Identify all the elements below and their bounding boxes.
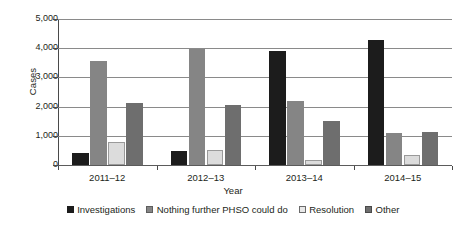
legend-label: Other [376, 204, 400, 215]
legend-label: Nothing further PHSO could do [157, 204, 288, 215]
bar [386, 133, 403, 165]
bar [368, 40, 385, 165]
bar-group [157, 19, 256, 165]
y-tick-label: 2,000 [16, 102, 58, 111]
legend-item[interactable]: Investigations [67, 204, 136, 215]
bar-group [255, 19, 354, 165]
x-category-label: 2014–15 [354, 172, 453, 183]
y-tick-1000: 1,000 [10, 131, 58, 141]
x-tick-mark [452, 166, 453, 170]
x-tick-mark [255, 166, 256, 170]
bar [287, 101, 304, 165]
x-tick-mark [58, 166, 59, 170]
bar [269, 51, 286, 165]
bar-group [58, 19, 157, 165]
legend-swatch-icon [365, 206, 372, 213]
x-category-label: 2011–12 [58, 172, 157, 183]
bar-chart: Cases 5,0004,0003,0002,0001,0000 2011–12… [0, 0, 466, 233]
bar [72, 153, 89, 165]
x-tick-mark [354, 166, 355, 170]
bar [207, 150, 224, 165]
legend-label: Resolution [309, 204, 354, 215]
bar [90, 61, 107, 165]
y-tick-label: 0 [16, 160, 58, 169]
bar [404, 155, 421, 165]
y-tick-5000: 5,000 [10, 14, 58, 24]
y-tick-label: 1,000 [16, 131, 58, 140]
x-category-label: 2013–14 [255, 172, 354, 183]
y-tick-label: 5,000 [16, 14, 58, 23]
bar [305, 160, 322, 165]
y-tick-3000: 3,000 [10, 72, 58, 82]
plot-area [58, 19, 452, 165]
legend-item[interactable]: Nothing further PHSO could do [146, 204, 287, 215]
y-tick-0: 0 [10, 160, 58, 170]
y-tick-label: 4,000 [16, 43, 58, 52]
legend-label: Investigations [77, 204, 135, 215]
bar [422, 132, 439, 165]
y-tick-2000: 2,000 [10, 102, 58, 112]
bar [108, 142, 125, 165]
y-tick-4000: 4,000 [10, 43, 58, 53]
bar [171, 151, 188, 165]
legend-swatch-icon [67, 206, 74, 213]
legend: InvestigationsNothing further PHSO could… [0, 204, 466, 215]
x-axis-title: Year [0, 185, 466, 196]
x-category-label: 2012–13 [157, 172, 256, 183]
legend-swatch-icon [299, 206, 306, 213]
y-tick-label: 3,000 [16, 72, 58, 81]
bar [323, 121, 340, 165]
legend-item[interactable]: Other [365, 204, 399, 215]
bar-group [354, 19, 453, 165]
bar [126, 103, 143, 165]
bar [225, 105, 242, 165]
legend-swatch-icon [146, 206, 153, 213]
bar [189, 49, 206, 165]
x-tick-mark [157, 166, 158, 170]
legend-item[interactable]: Resolution [299, 204, 354, 215]
